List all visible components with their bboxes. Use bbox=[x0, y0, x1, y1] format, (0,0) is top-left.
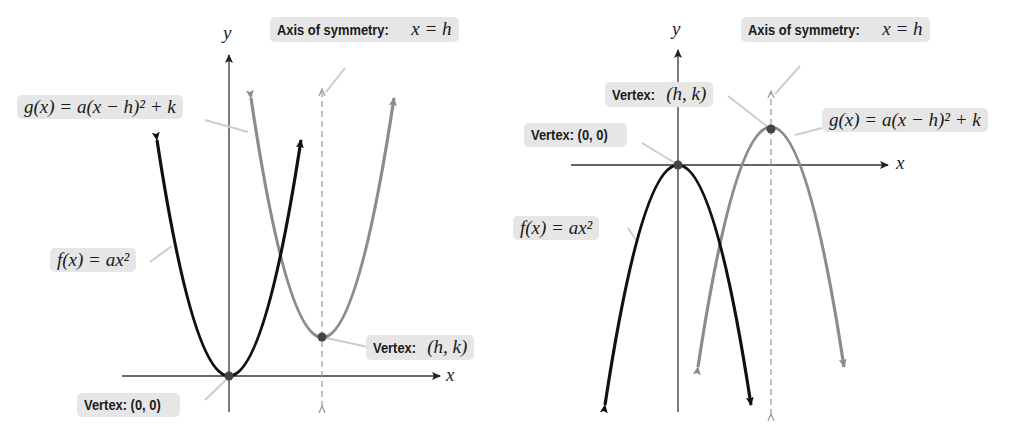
parabola-translation-diagram: y x Axis of symmetry: x = h g(x) = a(x −… bbox=[0, 0, 1033, 447]
f-function-label: f(x) = ax² bbox=[513, 216, 599, 240]
g-function-label: g(x) = a(x − h)² + k bbox=[822, 108, 988, 132]
vertex-origin-point bbox=[674, 161, 683, 170]
vertex-hk-label: Vertex: (h, k) bbox=[605, 82, 713, 107]
axis-of-symmetry-label: Axis of symmetry: x = h bbox=[741, 17, 930, 42]
vertex-hk-point bbox=[767, 125, 776, 134]
vertex-origin-label: Vertex: (0, 0) bbox=[77, 393, 180, 417]
y-axis-label: y bbox=[672, 18, 680, 40]
g-function-label: g(x) = a(x − h)² + k bbox=[17, 95, 183, 119]
x-axis-label: x bbox=[446, 364, 454, 386]
vertex-origin-point bbox=[225, 372, 234, 381]
axis-of-symmetry-label: Axis of symmetry: x = h bbox=[270, 17, 459, 42]
vertex-hk-point bbox=[318, 333, 327, 342]
f-function-label: f(x) = ax² bbox=[50, 248, 136, 272]
y-axis-label: y bbox=[223, 22, 231, 44]
x-axis-label: x bbox=[896, 152, 904, 174]
vertex-origin-label: Vertex: (0, 0) bbox=[524, 123, 627, 147]
vertex-hk-label: Vertex: (h, k) bbox=[366, 335, 474, 360]
